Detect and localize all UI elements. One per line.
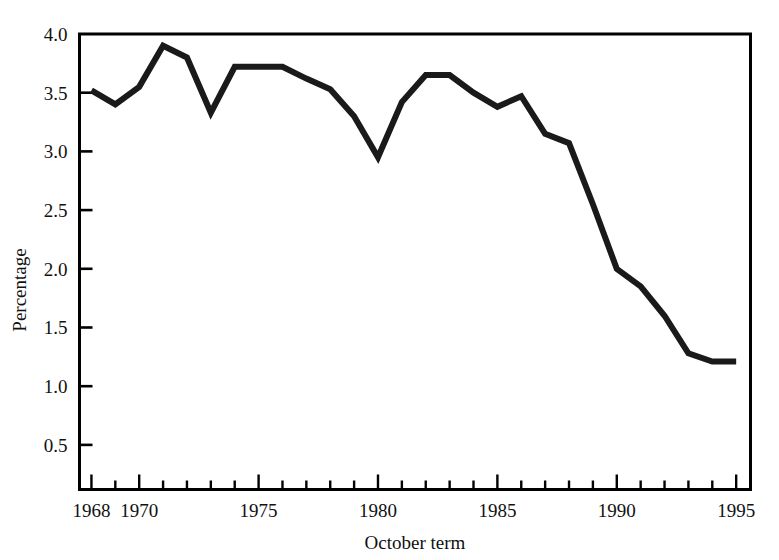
y-axis-tick-labels: 0.51.01.52.02.53.03.54.0 bbox=[44, 24, 68, 456]
y-tick-label: 1.0 bbox=[44, 376, 68, 397]
x-axis-title: October term bbox=[365, 532, 466, 553]
y-tick-label: 3.0 bbox=[44, 141, 68, 162]
x-tick-label: 1990 bbox=[598, 500, 636, 521]
x-axis-tick-labels: 1968197019751980198519901995 bbox=[72, 500, 755, 521]
x-tick-label: 1995 bbox=[717, 500, 755, 521]
x-tick-label: 1970 bbox=[120, 500, 158, 521]
y-tick-label: 4.0 bbox=[44, 24, 68, 45]
y-tick-label: 2.0 bbox=[44, 259, 68, 280]
line-chart-svg: 0.51.01.52.02.53.03.54.0 196819701975198… bbox=[0, 0, 779, 560]
y-tick-label: 0.5 bbox=[44, 435, 68, 456]
y-axis-ticks bbox=[80, 93, 93, 445]
y-tick-label: 3.5 bbox=[44, 83, 68, 104]
x-tick-label: 1975 bbox=[240, 500, 278, 521]
x-tick-label: 1980 bbox=[359, 500, 397, 521]
chart-figure: 0.51.01.52.02.53.03.54.0 196819701975198… bbox=[0, 0, 779, 560]
y-axis-title: Percentage bbox=[9, 248, 30, 331]
x-tick-label: 1985 bbox=[478, 500, 516, 521]
x-axis-ticks bbox=[91, 475, 736, 490]
data-series-line bbox=[91, 46, 736, 362]
y-tick-label: 1.5 bbox=[44, 317, 68, 338]
x-tick-label: 1968 bbox=[72, 500, 110, 521]
y-tick-label: 2.5 bbox=[44, 200, 68, 221]
plot-frame bbox=[78, 34, 752, 491]
